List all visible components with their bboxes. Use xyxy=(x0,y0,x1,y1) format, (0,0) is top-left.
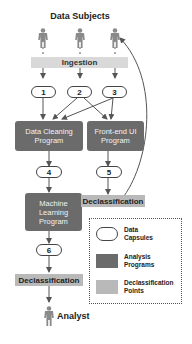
ml-line3: Program xyxy=(39,217,68,226)
data-capsule-2: 2 xyxy=(67,86,92,98)
legend-declass-swatch xyxy=(96,280,118,294)
data-capsule-6: 6 xyxy=(36,244,62,256)
data-subjects-title: Data Subjects xyxy=(40,11,120,21)
machine-learning-program: Machine Learning Program xyxy=(25,193,82,231)
legend-capsule-line2: Capsules xyxy=(124,234,153,242)
legend-program-swatch xyxy=(96,254,118,268)
legend-program-text: Analysis Programs xyxy=(124,253,154,269)
subject-to-ingestion-lines xyxy=(43,47,115,57)
legend: Data Capsules Analysis Programs Declassi… xyxy=(89,218,182,304)
legend-item-data-capsules: Data Capsules xyxy=(96,226,153,242)
data-capsule-3: 3 xyxy=(102,86,127,98)
legend-declass-line2: Points xyxy=(124,287,174,295)
legend-capsule-swatch xyxy=(96,227,118,241)
legend-capsule-line1: Data xyxy=(124,226,153,234)
ml-line2: Learning xyxy=(39,208,68,217)
data-capsule-1: 1 xyxy=(31,86,56,98)
data-subject-3-icon xyxy=(109,28,121,48)
capsule-to-program-arrows xyxy=(43,98,113,119)
legend-program-line2: Programs xyxy=(124,261,154,269)
analyst-icon xyxy=(43,305,55,327)
frontend-ui-line1: Front-end UI xyxy=(94,127,136,136)
data-subject-1-icon xyxy=(37,28,49,48)
legend-declass-text: Declassification Points xyxy=(124,279,174,295)
legend-program-line1: Analysis xyxy=(124,253,154,261)
data-capsule-4: 4 xyxy=(36,166,62,178)
data-cleaning-line1: Data Cleaning xyxy=(25,127,73,136)
frontend-ui-program: Front-end UI Program xyxy=(87,121,144,151)
declassification-point-frontend: Declassification xyxy=(81,195,145,207)
data-cleaning-program: Data Cleaning Program xyxy=(15,121,83,151)
legend-capsule-text: Data Capsules xyxy=(124,226,153,242)
ml-line1: Machine xyxy=(39,199,67,208)
data-cleaning-line2: Program xyxy=(35,136,64,145)
data-subject-2-icon xyxy=(74,28,86,48)
ingestion-to-capsule-arrows xyxy=(43,68,115,78)
frontend-ui-line2: Program xyxy=(101,136,130,145)
declassification-point-ml: Declassification xyxy=(15,274,83,286)
legend-declass-line1: Declassification xyxy=(124,279,174,287)
data-capsule-5: 5 xyxy=(96,166,122,178)
legend-item-declassification-points: Declassification Points xyxy=(96,279,174,295)
analyst-label: Analyst xyxy=(57,311,90,321)
legend-item-analysis-programs: Analysis Programs xyxy=(96,253,154,269)
ingestion-bar: Ingestion xyxy=(31,57,128,68)
